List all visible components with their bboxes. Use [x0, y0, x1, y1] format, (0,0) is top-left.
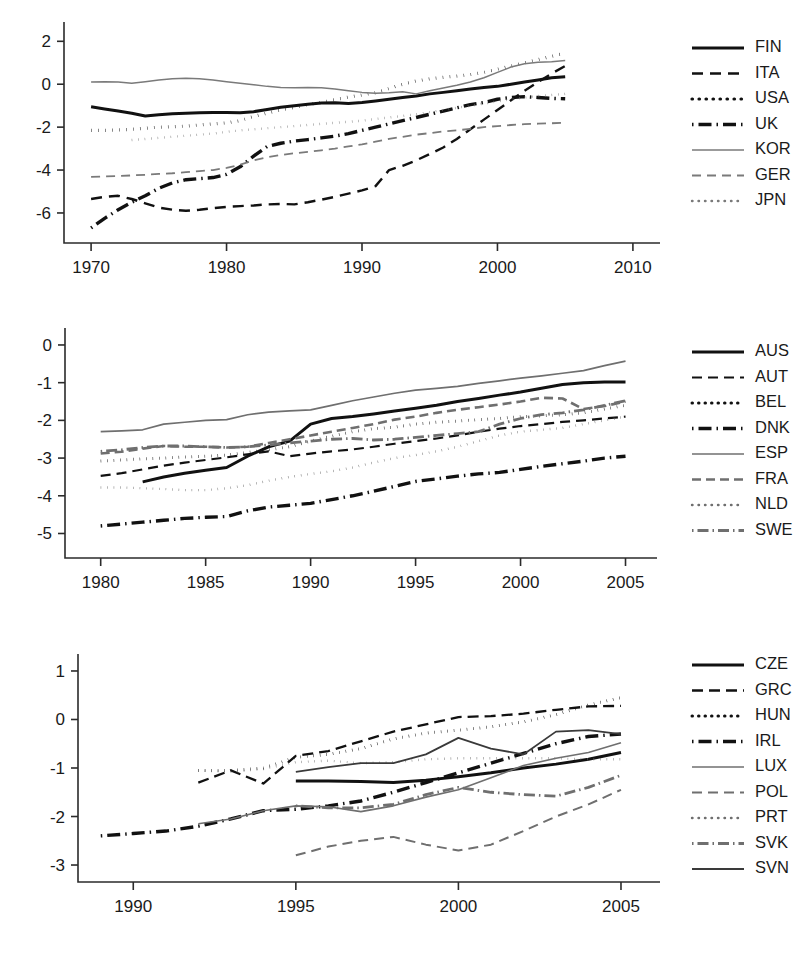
- y-tick-label: -6: [36, 204, 51, 223]
- series-line-svn: [296, 730, 621, 772]
- y-tick-label: -5: [37, 524, 52, 543]
- legend-label-bel: BEL: [755, 392, 786, 410]
- y-tick-label: -4: [36, 161, 51, 180]
- series-line-usa: [91, 53, 565, 130]
- x-tick-label: 1990: [292, 573, 330, 592]
- legend-label-jpn: JPN: [755, 190, 786, 208]
- x-tick-label: 1990: [343, 258, 381, 277]
- legend-label-irl: IRL: [755, 731, 781, 749]
- legend-label-fra: FRA: [755, 469, 788, 487]
- legend-label-svn: SVN: [755, 858, 789, 876]
- legend-label-swe: SWE: [755, 520, 793, 538]
- axis-spine: [64, 22, 660, 243]
- y-tick-label: 1: [56, 662, 65, 681]
- legend-label-grc: GRC: [755, 680, 792, 698]
- y-tick-label: -2: [36, 118, 51, 137]
- x-tick-label: 2000: [439, 897, 477, 916]
- legend-label-nld: NLD: [755, 494, 788, 512]
- axis-spine: [78, 654, 660, 882]
- y-tick-label: -4: [37, 487, 52, 506]
- series-line-grc: [198, 706, 621, 784]
- legend-label-aut: AUT: [755, 367, 788, 385]
- series-line-swe: [101, 401, 626, 452]
- series-line-ger: [91, 123, 565, 177]
- x-tick-label: 1995: [277, 897, 315, 916]
- legend-label-usa: USA: [755, 88, 789, 106]
- legend-label-fin: FIN: [755, 37, 782, 55]
- legend-label-lux: LUX: [755, 756, 787, 774]
- x-tick-label: 2005: [602, 897, 640, 916]
- legend-label-pol: POL: [755, 782, 788, 800]
- legend-label-ger: GER: [755, 165, 791, 183]
- legend-label-dnk: DNK: [755, 418, 790, 436]
- figure-root: 20-2-4-619701980199020002010FINITAUSAUKK…: [0, 0, 805, 954]
- y-tick-label: -3: [50, 856, 65, 875]
- legend-label-aus: AUS: [755, 341, 789, 359]
- axis-spine: [65, 328, 657, 558]
- legend-label-uk: UK: [755, 114, 778, 132]
- series-line-fin: [91, 77, 565, 116]
- series-line-dnk: [101, 456, 626, 526]
- series-line-esp: [101, 361, 626, 432]
- y-tick-label: -2: [50, 808, 65, 827]
- y-tick-label: -1: [37, 374, 52, 393]
- y-tick-label: 0: [43, 336, 52, 355]
- x-tick-label: 1995: [397, 573, 435, 592]
- series-line-bel: [101, 405, 626, 461]
- y-tick-label: 0: [56, 710, 65, 729]
- chart-svg-1: 20-2-4-619701980199020002010FINITAUSAUKK…: [0, 0, 805, 300]
- x-tick-label: 2000: [502, 573, 540, 592]
- y-tick-label: -3: [37, 449, 52, 468]
- x-tick-label: 1970: [72, 258, 110, 277]
- series-line-irl: [101, 734, 621, 836]
- x-tick-label: 1990: [114, 897, 152, 916]
- series-line-pol: [296, 790, 621, 855]
- y-tick-label: -2: [37, 411, 52, 430]
- series-line-nld: [101, 417, 626, 491]
- y-tick-label: 2: [42, 32, 51, 51]
- chart-panel-2: 0-1-2-3-4-5198019851990199520002005AUSAU…: [0, 300, 805, 620]
- chart-panel-1: 20-2-4-619701980199020002010FINITAUSAUKK…: [0, 0, 805, 300]
- x-tick-label: 2000: [479, 258, 517, 277]
- legend-label-kor: KOR: [755, 139, 791, 157]
- chart-svg-2: 0-1-2-3-4-5198019851990199520002005AUSAU…: [0, 300, 805, 620]
- series-line-cze: [296, 752, 621, 782]
- x-tick-label: 1985: [187, 573, 225, 592]
- series-line-aus: [143, 382, 626, 482]
- x-tick-label: 2005: [607, 573, 645, 592]
- x-tick-label: 2010: [614, 258, 652, 277]
- legend-label-cze: CZE: [755, 654, 788, 672]
- legend-label-prt: PRT: [755, 807, 788, 825]
- chart-panel-3: 10-1-2-31990199520002005CZEGRCHUNIRLLUXP…: [0, 620, 805, 954]
- y-tick-label: -1: [50, 759, 65, 778]
- x-tick-label: 1980: [82, 573, 120, 592]
- legend-label-hun: HUN: [755, 705, 791, 723]
- series-line-kor: [91, 61, 565, 94]
- legend-label-esp: ESP: [755, 443, 788, 461]
- legend-label-svk: SVK: [755, 833, 788, 851]
- chart-svg-3: 10-1-2-31990199520002005CZEGRCHUNIRLLUXP…: [0, 620, 805, 954]
- series-line-fra: [101, 398, 626, 454]
- x-tick-label: 1980: [208, 258, 246, 277]
- y-tick-label: 0: [42, 75, 51, 94]
- legend-label-ita: ITA: [755, 63, 779, 81]
